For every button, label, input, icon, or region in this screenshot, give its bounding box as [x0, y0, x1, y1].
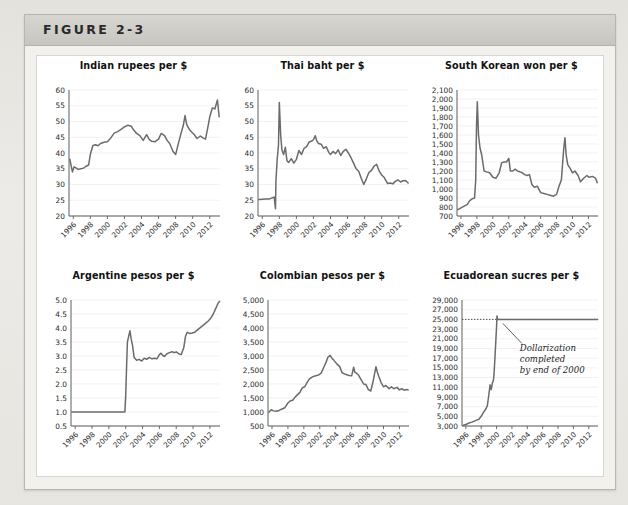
- ytick-label: 4.0: [55, 324, 67, 333]
- ytick-label: 1,800: [432, 113, 453, 122]
- xtick-label: 2006: [526, 220, 546, 240]
- ytick-label: 3.5: [55, 338, 67, 347]
- series-line: [259, 103, 408, 209]
- ytick-label: 900: [439, 194, 453, 203]
- xtick-label: 2006: [145, 430, 165, 450]
- ytick-label: 35: [56, 164, 66, 173]
- xtick-label: 2004: [127, 220, 147, 240]
- chart-argentine-pesos: Argentine pesos per $0.51.01.52.02.53.03…: [39, 270, 228, 480]
- ytick-label: 23,000: [432, 325, 458, 334]
- xtick-label: 2010: [178, 430, 198, 450]
- ytick-label: 35: [245, 164, 255, 173]
- chart-svg-ecuadorean-sucres: 3,0005,0007,0009,00011,00013,00015,00017…: [417, 284, 606, 472]
- ytick-label: 55: [56, 101, 66, 110]
- series-line: [72, 301, 220, 412]
- ytick-label: 60: [56, 86, 66, 95]
- chart-title-ecuadorean-sucres: Ecuadorean sucres per $: [417, 270, 606, 281]
- ytick-label: 11,000: [432, 383, 458, 392]
- ytick-label: 1.0: [55, 408, 67, 417]
- ytick-label: 4,000: [243, 324, 264, 333]
- xtick-label: 1998: [462, 220, 482, 240]
- xtick-label: 2008: [353, 430, 373, 450]
- xtick-label: 2006: [528, 430, 548, 450]
- xtick-label: 1998: [467, 430, 487, 450]
- ytick-label: 20: [56, 212, 66, 221]
- ytick-label: 1.5: [55, 394, 67, 403]
- ytick-label: 1,000: [432, 185, 453, 194]
- ytick-label: 55: [245, 101, 255, 110]
- ytick-label: 700: [439, 212, 453, 221]
- ytick-label: 2,500: [243, 366, 264, 375]
- xtick-label: 2002: [299, 220, 319, 240]
- ytick-label: 1,100: [432, 176, 453, 185]
- ytick-label: 17,000: [432, 354, 458, 363]
- xtick-label: 1996: [59, 220, 79, 240]
- xtick-label: 2006: [333, 220, 353, 240]
- ytick-label: 29,000: [432, 296, 458, 305]
- ytick-label: 5,000: [243, 296, 264, 305]
- ytick-label: 3,000: [437, 422, 458, 431]
- ytick-label: 1,900: [432, 104, 453, 113]
- ytick-label: 13,000: [432, 373, 458, 382]
- chart-south-korean-won: South Korean won per $7008009001,0001,10…: [417, 60, 606, 270]
- chart-svg-south-korean-won: 7008009001,0001,1001,2001,3001,4001,5001…: [417, 74, 606, 262]
- figure-frame: FIGURE 2-3 Indian rupees per $2025303540…: [24, 14, 616, 490]
- ytick-label: 45: [56, 133, 66, 142]
- ytick-label: 25,000: [432, 315, 458, 324]
- xtick-label: 2002: [111, 430, 131, 450]
- ytick-label: 9,000: [437, 393, 458, 402]
- ytick-label: 15,000: [432, 363, 458, 372]
- ytick-label: 0.5: [55, 422, 67, 431]
- chart-ecuadorean-sucres: Ecuadorean sucres per $3,0005,0007,0009,…: [417, 270, 606, 480]
- series-line: [458, 102, 597, 210]
- ytick-label: 3,000: [243, 352, 264, 361]
- ytick-label: 1,500: [243, 394, 264, 403]
- chart-svg-thai-baht: 2025303540455055601996199820002002200420…: [228, 74, 417, 262]
- ytick-label: 40: [56, 149, 66, 158]
- ytick-label: 5,000: [437, 412, 458, 421]
- chart-annotation-line: Dollarization: [519, 343, 576, 353]
- xtick-label: 2008: [542, 220, 562, 240]
- chart-title-thai-baht: Thai baht per $: [228, 60, 417, 71]
- ytick-label: 25: [56, 196, 66, 205]
- chart-svg-argentine-pesos: 0.51.01.52.02.53.03.54.04.55.01996199820…: [39, 284, 228, 472]
- ytick-label: 1,600: [432, 131, 453, 140]
- charts-panel: Indian rupees per $202530354045505560199…: [36, 55, 604, 477]
- xtick-label: 2000: [93, 220, 113, 240]
- ytick-label: 50: [245, 117, 255, 126]
- ytick-label: 1,500: [432, 140, 453, 149]
- ytick-label: 2,000: [432, 95, 453, 104]
- figure-label: FIGURE 2-3: [43, 22, 146, 37]
- ytick-label: 30: [245, 180, 255, 189]
- xtick-label: 2012: [574, 220, 594, 240]
- xtick-label: 2002: [305, 430, 325, 450]
- ytick-label: 50: [56, 117, 66, 126]
- xtick-label: 2008: [162, 430, 182, 450]
- ytick-label: 4.5: [55, 310, 67, 319]
- xtick-label: 1998: [273, 430, 293, 450]
- chart-annotation-line: by end of 2000: [520, 365, 585, 375]
- ytick-label: 21,000: [432, 334, 458, 343]
- xtick-label: 2012: [385, 430, 405, 450]
- xtick-label: 2004: [513, 430, 533, 450]
- ytick-label: 1,400: [432, 149, 453, 158]
- xtick-label: 2000: [478, 220, 498, 240]
- ytick-label: 1,200: [432, 167, 453, 176]
- ytick-label: 1,700: [432, 122, 453, 131]
- chart-title-indian-rupees: Indian rupees per $: [39, 60, 228, 71]
- ytick-label: 45: [245, 133, 255, 142]
- xtick-label: 2000: [282, 220, 302, 240]
- xtick-label: 2004: [510, 220, 530, 240]
- xtick-label: 2012: [384, 220, 404, 240]
- xtick-label: 2010: [367, 220, 387, 240]
- xtick-label: 2010: [178, 220, 198, 240]
- xtick-label: 2012: [195, 430, 215, 450]
- xtick-label: 1996: [451, 430, 471, 450]
- xtick-label: 2008: [350, 220, 370, 240]
- ytick-label: 27,000: [432, 305, 458, 314]
- ytick-label: 40: [245, 149, 255, 158]
- ytick-label: 1,000: [243, 408, 264, 417]
- xtick-label: 2004: [321, 430, 341, 450]
- ytick-label: 60: [245, 86, 255, 95]
- xtick-label: 1996: [248, 220, 268, 240]
